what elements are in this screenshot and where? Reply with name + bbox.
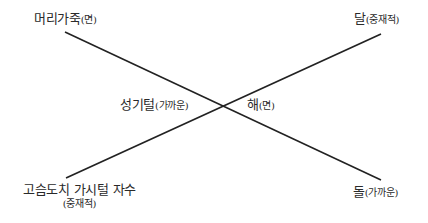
label-top-left: 머리가죽(면) bbox=[34, 12, 97, 25]
label-main: 고슴도치 가시털 자수 bbox=[17, 183, 142, 196]
label-center-right: 해(면) bbox=[247, 98, 275, 111]
label-sub: (면) bbox=[81, 14, 97, 25]
label-sub: (면) bbox=[259, 100, 275, 111]
label-sub: (가까운) bbox=[365, 187, 398, 198]
label-main: 머리가죽 bbox=[34, 11, 81, 26]
label-sub: (중재적) bbox=[366, 14, 399, 25]
label-main: 달 bbox=[354, 11, 366, 26]
line-bottomleft-to-topright bbox=[66, 34, 381, 178]
label-main: 돌 bbox=[353, 184, 365, 199]
label-bottom-right: 돌(가까운) bbox=[353, 185, 398, 198]
label-sub: (중재적) bbox=[17, 199, 142, 209]
label-center-left: 성기털(가까운) bbox=[120, 98, 188, 111]
label-top-right: 달(중재적) bbox=[354, 12, 399, 25]
label-main: 해 bbox=[247, 97, 259, 112]
label-main: 성기털 bbox=[120, 97, 155, 112]
label-bottom-left: 고슴도치 가시털 자수 (중재적) bbox=[17, 183, 142, 209]
label-sub: (가까운) bbox=[155, 100, 188, 111]
